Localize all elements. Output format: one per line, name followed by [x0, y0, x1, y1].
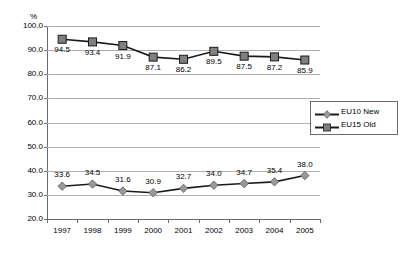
data-point-square-marker: [58, 35, 66, 43]
x-axis-tick-mark: [199, 219, 200, 223]
legend-square-marker-icon: [314, 119, 340, 130]
x-axis-tick-mark: [138, 219, 139, 223]
x-axis-tick-mark: [47, 219, 48, 223]
data-point-label: 32.7: [176, 172, 192, 181]
legend: EU10 New EU15 Old: [310, 101, 398, 135]
data-point-label: 89.5: [206, 57, 222, 66]
data-point-label: 87.2: [267, 63, 283, 72]
data-point-square-marker: [301, 56, 309, 64]
y-axis-tick-label: 100.0: [3, 22, 43, 30]
x-axis-tick-label: 1997: [53, 226, 71, 235]
data-point-diamond-marker: [270, 178, 278, 186]
x-axis-tick-mark: [320, 219, 321, 223]
data-point-diamond-marker: [210, 181, 218, 189]
x-axis-tick-label: 1998: [84, 226, 102, 235]
x-axis-tick-label: 2004: [266, 226, 284, 235]
data-point-label: 85.9: [297, 66, 313, 75]
data-point-square-marker: [119, 42, 127, 50]
data-point-label: 38.0: [297, 160, 313, 169]
y-axis-tick-label: 20.0: [3, 215, 43, 223]
data-point-square-marker: [240, 52, 248, 60]
data-point-diamond-marker: [119, 187, 127, 195]
x-axis-tick-mark: [168, 219, 169, 223]
data-point-label: 34.0: [206, 169, 222, 178]
data-point-label: 34.7: [236, 168, 252, 177]
x-axis-tick-label: 2005: [296, 226, 314, 235]
y-axis-tick-label: 40.0: [3, 167, 43, 175]
y-axis-tick-label: 60.0: [3, 119, 43, 127]
data-point-label: 33.6: [54, 170, 70, 179]
data-point-square-marker: [149, 53, 157, 61]
data-point-label: 34.5: [85, 168, 101, 177]
x-axis-tick-mark: [108, 219, 109, 223]
plot-area: 33.634.531.630.932.734.034.735.438.094.5…: [47, 26, 320, 219]
legend-label-eu15-old: EU15 Old: [340, 120, 376, 129]
data-point-label: 91.9: [115, 52, 131, 61]
data-point-label: 35.4: [267, 166, 283, 175]
legend-item-eu15-old[interactable]: EU15 Old: [314, 118, 393, 131]
x-axis-tick-mark: [229, 219, 230, 223]
x-axis-tick-label: 2000: [144, 226, 162, 235]
x-axis-tick-label: 2003: [235, 226, 253, 235]
data-point-square-marker: [180, 55, 188, 63]
data-point-square-marker: [271, 53, 279, 61]
x-axis-tick-mark: [77, 219, 78, 223]
y-axis-tick-label: 30.0: [3, 191, 43, 199]
data-point-label: 94.5: [54, 45, 70, 54]
y-axis-tick-label: 50.0: [3, 143, 43, 151]
x-axis-line: [47, 219, 321, 220]
data-point-diamond-marker: [179, 184, 187, 192]
x-axis-tick-mark: [259, 219, 260, 223]
data-point-label: 87.5: [236, 62, 252, 71]
data-point-diamond-marker: [88, 180, 96, 188]
x-axis-tick-label: 2001: [175, 226, 193, 235]
legend-label-eu10-new: EU10 New: [340, 107, 379, 116]
y-axis-tick-label: 80.0: [3, 70, 43, 78]
data-point-diamond-marker: [58, 182, 66, 190]
x-axis-tick-label: 2002: [205, 226, 223, 235]
data-point-square-marker: [210, 47, 218, 55]
x-axis-tick-mark: [290, 219, 291, 223]
data-point-label: 86.2: [176, 65, 192, 74]
y-axis-tick-label: 70.0: [3, 94, 43, 102]
legend-diamond-marker-icon: [314, 106, 340, 117]
y-axis-tick-label: 90.0: [3, 46, 43, 54]
data-point-label: 87.1: [145, 63, 161, 72]
line-chart: % 100.090.080.070.060.050.040.030.020.0 …: [0, 0, 406, 253]
data-point-square-marker: [89, 38, 97, 46]
legend-item-eu10-new[interactable]: EU10 New: [314, 105, 393, 118]
data-point-label: 31.6: [115, 175, 131, 184]
data-point-diamond-marker: [240, 179, 248, 187]
data-point-diamond-marker: [301, 171, 309, 179]
x-axis-tick-label: 1999: [114, 226, 132, 235]
data-point-label: 30.9: [145, 177, 161, 186]
data-point-diamond-marker: [149, 189, 157, 197]
data-point-label: 93.4: [85, 48, 101, 57]
